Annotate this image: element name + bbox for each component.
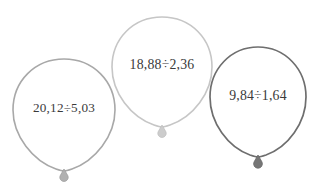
balloon-1[interactable]: 20,12÷5,03	[11, 58, 117, 180]
balloon-2-expression: 18,88÷2,36	[108, 58, 216, 72]
worksheet-canvas: 20,12÷5,03 18,88÷2,36 9,84÷1,64	[0, 0, 319, 190]
balloon-1-expression: 20,12÷5,03	[11, 101, 117, 114]
balloon-2-body	[112, 17, 212, 127]
balloon-2[interactable]: 18,88÷2,36	[110, 16, 214, 136]
balloon-1-body	[13, 59, 115, 171]
balloon-3-expression: 9,84÷1,64	[206, 89, 310, 103]
balloon-3[interactable]: 9,84÷1,64	[208, 46, 308, 166]
